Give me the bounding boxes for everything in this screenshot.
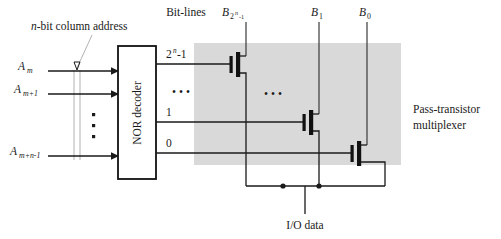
address-input-label-2: A m+n-1 — [9, 145, 40, 160]
svg-text:2: 2 — [230, 12, 234, 21]
svg-text:A: A — [17, 60, 26, 72]
address-input-arrow-0 — [48, 67, 119, 75]
nor-decoder-label: NOR decoder — [131, 81, 143, 145]
address-input-arrow-2 — [48, 152, 119, 160]
pass-transistor-multiplexer-label-line2: multiplexer — [413, 119, 466, 132]
svg-text:n: n — [235, 9, 238, 16]
figure-canvas: • • • • • • n-bit column address Bit-lin… — [0, 0, 501, 239]
svg-text:1: 1 — [319, 12, 323, 21]
svg-text:B: B — [359, 6, 366, 18]
decoder-output-label-top: 2 n -1 — [166, 47, 187, 60]
io-data-label: I/O data — [286, 219, 323, 231]
column-address-label: n-bit column address — [31, 20, 128, 32]
address-input-arrow-1 — [48, 90, 119, 98]
svg-text:m+1: m+1 — [23, 89, 38, 98]
bit-line-label-msb: B 2 n -1 — [222, 6, 244, 21]
svg-text:0: 0 — [367, 12, 371, 21]
address-input-label-1: A m+1 — [13, 83, 38, 98]
circuit-diagram-svg: • • • • • • n-bit column address Bit-lin… — [0, 0, 501, 239]
decoder-output-label-one: 1 — [166, 106, 172, 118]
svg-text:-1: -1 — [239, 13, 244, 20]
svg-text:B: B — [311, 6, 318, 18]
svg-text:m: m — [27, 66, 33, 75]
bitline-ellipsis: • • • — [264, 88, 282, 100]
pass-transistor-region-shading — [194, 43, 401, 165]
svg-text:2: 2 — [166, 48, 172, 60]
io-junction-dot-right — [316, 183, 321, 188]
address-vertical-ellipsis — [92, 113, 95, 138]
bit-line-label-0: B 0 — [359, 6, 371, 21]
svg-text:-1: -1 — [177, 48, 187, 60]
svg-text:A: A — [13, 83, 22, 95]
bit-line-label-1: B 1 — [311, 6, 323, 21]
bit-lines-label: Bit-lines — [166, 6, 206, 18]
decoder-output-ellipsis: • • • — [172, 86, 190, 98]
pass-transistor-multiplexer-label-line1: Pass-transistor — [413, 103, 480, 115]
address-input-label-0: A m — [17, 60, 33, 75]
svg-text:B: B — [222, 6, 229, 18]
svg-text:A: A — [9, 145, 18, 157]
decoder-output-label-zero: 0 — [166, 137, 172, 149]
io-junction-dot-left — [280, 183, 285, 188]
column-address-arrowhead — [74, 62, 80, 70]
svg-text:m+n-1: m+n-1 — [19, 151, 40, 160]
